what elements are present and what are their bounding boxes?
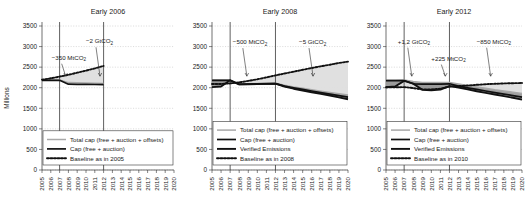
y-tick-label: 3000 bbox=[367, 43, 382, 50]
x-tick-label: 2018 bbox=[500, 176, 507, 190]
y-tick-label: 2000 bbox=[367, 84, 382, 91]
annotation-label: −2 GtCO2 bbox=[86, 37, 114, 46]
annotation-label: −5 GtCO2 bbox=[299, 38, 327, 47]
annotation-leader bbox=[243, 48, 247, 76]
x-tick-label: 2015 bbox=[126, 176, 133, 190]
x-tick-label: 2011 bbox=[437, 176, 444, 190]
x-tick-label: 2013 bbox=[281, 176, 288, 190]
annotation-label: +1,2 GtCO2 bbox=[398, 38, 431, 47]
x-tick-label: 2010 bbox=[428, 176, 435, 190]
x-tick-label: 2014 bbox=[290, 176, 297, 190]
x-tick-label: 2010 bbox=[82, 176, 89, 190]
x-tick-label: 2019 bbox=[335, 176, 342, 190]
annotation-arrowhead bbox=[444, 73, 448, 76]
panel-plot: Early 2008050010001500200025003000350020… bbox=[178, 0, 352, 211]
x-tick-label: 2011 bbox=[263, 176, 270, 190]
emissions-cap-figure: Early 20060500100015002000250030003500Mi… bbox=[0, 0, 526, 211]
x-tick-label: 2020 bbox=[518, 176, 525, 190]
y-tick-label: 1500 bbox=[367, 105, 382, 112]
legend-label: Verified Emissions bbox=[240, 145, 291, 152]
panel-title: Early 2008 bbox=[263, 7, 297, 16]
legend-label: Cap (free + auction) bbox=[70, 145, 125, 152]
annotation: −500 MtCO2 bbox=[233, 38, 268, 76]
y-tick-label: 1000 bbox=[367, 125, 382, 132]
chart-panel-early-2006: Early 20060500100015002000250030003500Mi… bbox=[0, 0, 178, 211]
x-tick-label: 2006 bbox=[217, 176, 224, 190]
x-tick-label: 2006 bbox=[47, 176, 54, 190]
chart-panel-early-2008: Early 2008050010001500200025003000350020… bbox=[178, 0, 352, 211]
y-tick-label: 1500 bbox=[23, 105, 38, 112]
annotation-leader bbox=[487, 48, 491, 77]
panel-title: Early 2012 bbox=[437, 7, 471, 16]
annotation-label: −350 MtCO2 bbox=[52, 54, 87, 63]
x-tick-label: 2009 bbox=[419, 176, 426, 190]
x-tick-label: 2008 bbox=[236, 176, 243, 190]
legend-label: Total cap (free + auction + offsets) bbox=[240, 126, 333, 133]
x-tick-label: 2012 bbox=[272, 176, 279, 190]
x-tick-label: 2017 bbox=[491, 176, 498, 190]
x-tick-label: 2020 bbox=[170, 176, 177, 190]
y-tick-label: 2500 bbox=[193, 63, 208, 70]
legend-label: Cap (free + auction) bbox=[240, 136, 295, 143]
y-tick-label: 2500 bbox=[23, 63, 38, 70]
x-tick-label: 2014 bbox=[464, 176, 471, 190]
annotation-label: +225 MtCO2 bbox=[431, 55, 466, 64]
y-tick-label: 2500 bbox=[367, 63, 382, 70]
annotation-leader bbox=[441, 65, 445, 77]
x-tick-label: 2013 bbox=[109, 176, 116, 190]
y-tick-label: 2000 bbox=[193, 84, 208, 91]
x-tick-label: 2011 bbox=[91, 176, 98, 190]
x-tick-label: 2007 bbox=[226, 176, 233, 190]
x-tick-label: 2010 bbox=[254, 176, 261, 190]
x-tick-label: 2016 bbox=[308, 176, 315, 190]
y-axis-label: Millions bbox=[3, 87, 10, 108]
y-tick-label: 0 bbox=[377, 166, 381, 173]
x-tick-label: 2019 bbox=[162, 176, 169, 190]
x-tick-label: 2017 bbox=[317, 176, 324, 190]
y-tick-label: 1500 bbox=[193, 105, 208, 112]
x-tick-label: 2008 bbox=[65, 176, 72, 190]
y-tick-label: 500 bbox=[196, 146, 207, 153]
annotation-leader bbox=[408, 48, 412, 77]
x-tick-label: 2015 bbox=[299, 176, 306, 190]
y-tick-label: 3000 bbox=[193, 43, 208, 50]
x-tick-label: 2013 bbox=[455, 176, 462, 190]
annotation: −850 MtCO2 bbox=[477, 38, 512, 77]
x-tick-label: 2008 bbox=[410, 176, 417, 190]
x-tick-label: 2005 bbox=[38, 176, 45, 190]
annotation-leader bbox=[62, 64, 66, 76]
y-tick-label: 1000 bbox=[23, 125, 38, 132]
x-tick-label: 2016 bbox=[135, 176, 142, 190]
y-tick-label: 0 bbox=[33, 166, 37, 173]
x-tick-label: 2005 bbox=[208, 176, 215, 190]
x-tick-label: 2019 bbox=[509, 176, 516, 190]
x-tick-label: 2009 bbox=[245, 176, 252, 190]
annotation: +225 MtCO2 bbox=[431, 55, 466, 77]
y-tick-label: 500 bbox=[370, 146, 381, 153]
annotation: +1,2 GtCO2 bbox=[398, 38, 431, 77]
x-tick-label: 2007 bbox=[56, 176, 63, 190]
panel-plot: Early 20060500100015002000250030003500Mi… bbox=[0, 0, 178, 211]
x-tick-label: 2015 bbox=[473, 176, 480, 190]
x-tick-label: 2005 bbox=[382, 176, 389, 190]
chart-panel-early-2012: Early 2012050010001500200025003000350020… bbox=[352, 0, 526, 211]
y-tick-label: 0 bbox=[203, 166, 207, 173]
x-tick-label: 2012 bbox=[100, 176, 107, 190]
x-tick-label: 2018 bbox=[153, 176, 160, 190]
x-tick-label: 2009 bbox=[74, 176, 81, 190]
x-tick-label: 2016 bbox=[482, 176, 489, 190]
x-tick-label: 2018 bbox=[326, 176, 333, 190]
legend-label: Total cap (free + auction + offsets) bbox=[70, 136, 163, 143]
gap-shading-baseline-cap bbox=[212, 62, 348, 95]
panel-title: Early 2006 bbox=[91, 7, 125, 16]
x-tick-label: 2007 bbox=[400, 176, 407, 190]
y-tick-label: 3500 bbox=[367, 22, 382, 29]
legend-label: Cap (free + auction) bbox=[414, 136, 469, 143]
y-tick-label: 500 bbox=[26, 146, 37, 153]
x-tick-label: 2006 bbox=[391, 176, 398, 190]
y-tick-label: 3500 bbox=[23, 22, 38, 29]
legend-label: Baseline as in 2008 bbox=[240, 155, 295, 162]
y-tick-label: 2000 bbox=[23, 84, 38, 91]
x-tick-label: 2020 bbox=[344, 176, 351, 190]
x-tick-label: 2014 bbox=[118, 176, 125, 190]
